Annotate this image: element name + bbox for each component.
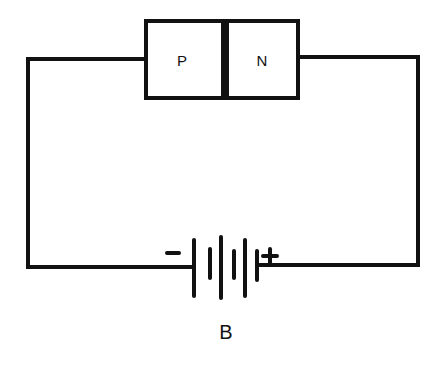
- p-region-label: P: [177, 52, 187, 69]
- pn-junction: P N: [146, 21, 298, 98]
- n-region-label: N: [257, 52, 268, 69]
- circuit-diagram: P N B: [0, 0, 442, 367]
- depletion-layer: [221, 21, 229, 98]
- battery-label: B: [219, 321, 232, 343]
